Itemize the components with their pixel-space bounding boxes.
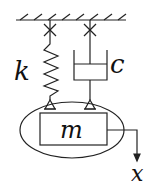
ceiling: [16, 14, 126, 20]
damper: [74, 20, 107, 100]
spring: [44, 20, 58, 100]
damper-label: c: [110, 49, 125, 79]
spring-mass-damper-diagram: k c m x: [0, 0, 158, 191]
mass-label: m: [60, 116, 83, 144]
spring-label: k: [14, 56, 30, 86]
displacement-label: x: [131, 161, 144, 186]
